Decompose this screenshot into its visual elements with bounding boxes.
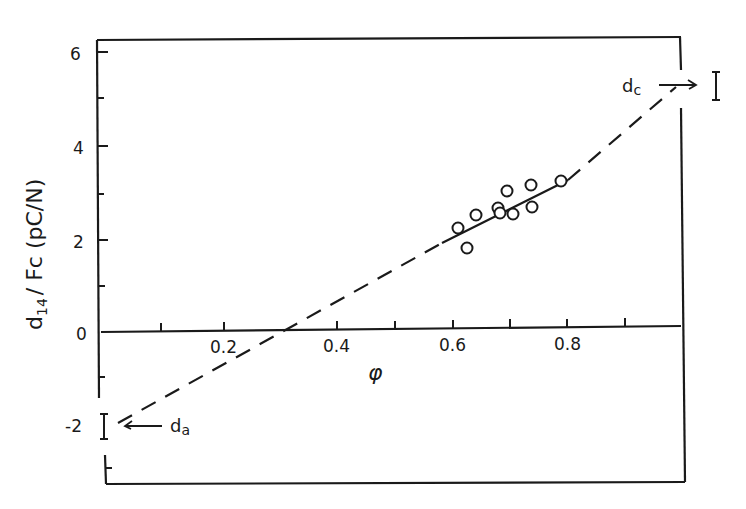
- data-point: [471, 210, 482, 221]
- da-label: da: [170, 415, 190, 438]
- y-axis-title-sub: 14: [34, 298, 50, 316]
- data-point: [526, 180, 537, 191]
- y-axis-title-rest: / Fc (pC/N): [22, 179, 47, 296]
- data-point: [556, 176, 567, 187]
- y-tick-0: 0: [76, 324, 87, 344]
- fit-line-dashed: [118, 87, 676, 423]
- x-axis-title: φ: [368, 360, 383, 385]
- data-points: [453, 176, 567, 254]
- da-arrow: [125, 421, 162, 429]
- svg-text:d14/ Fc (pC/N): d14/ Fc (pC/N): [22, 179, 50, 330]
- y-axis-title: d14/ Fc (pC/N): [22, 179, 50, 330]
- x-tick-0.4: 0.4: [323, 336, 350, 356]
- data-point: [527, 202, 538, 213]
- x-tick-0.2: 0.2: [210, 337, 237, 357]
- y-axis-title-main: d: [22, 316, 47, 330]
- x-tick-labels: 0.2 0.4 0.6 0.8: [210, 334, 581, 357]
- y-tick-6: 6: [70, 44, 81, 64]
- data-point: [502, 186, 513, 197]
- x-tick-0.8: 0.8: [554, 334, 581, 354]
- y-tick-neg2: -2: [65, 416, 82, 436]
- dc-label: dc: [622, 75, 641, 98]
- x-tick-0.6: 0.6: [439, 335, 466, 355]
- y-tick-2: 2: [73, 232, 84, 252]
- data-point: [453, 223, 464, 234]
- data-point: [462, 243, 473, 254]
- dc-arrow: [659, 80, 696, 89]
- plot-frame: [97, 37, 685, 484]
- chart: 6 4 2 0 -2 0.2 0.4 0.6 0.8 φ d14/ Fc (pC…: [0, 0, 746, 509]
- data-point: [508, 209, 519, 220]
- data-point: [495, 208, 506, 219]
- y-tick-4: 4: [73, 138, 84, 158]
- dc-error-bar: [712, 72, 720, 100]
- y-tick-labels: 6 4 2 0 -2: [65, 44, 87, 436]
- da-error-bar: [100, 414, 108, 439]
